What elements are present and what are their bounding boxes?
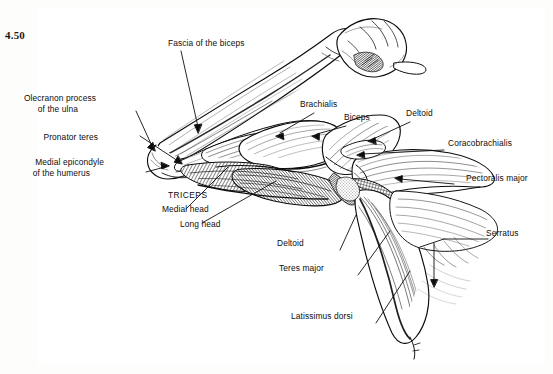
label-biceps: Biceps — [344, 112, 370, 123]
label-medial-epicondyle-of-the-humerus: Medial epicondyle of the humerus — [0, 157, 104, 179]
label-brachialis: Brachialis — [300, 99, 337, 110]
label-olecranon-process-line1: Olecranon process — [0, 93, 96, 104]
label-medial-epicondyle-line1: Medial epicondyle — [0, 157, 104, 168]
label-deltoid-lower: Deltoid — [277, 238, 304, 249]
label-olecranon-process-line2: of the ulna — [0, 104, 78, 115]
label-deltoid-upper: Deltoid — [406, 108, 433, 119]
label-olecranon-process-of-the-ulna: Olecranon process of the ulna — [0, 93, 96, 115]
label-medial-epicondyle-line2: of the humerus — [0, 168, 90, 179]
figure-plate: 4.50 — [0, 0, 553, 374]
label-layer: Fascia of the biceps Olecranon process o… — [0, 0, 553, 374]
label-triceps: TRICEPS — [168, 190, 207, 201]
label-medial-head: Medial head — [162, 204, 209, 215]
label-latissimus-dorsi: Latissimus dorsi — [291, 311, 353, 322]
label-fascia-of-the-biceps: Fascia of the biceps — [168, 38, 244, 49]
label-coracobrachialis: Coracobrachialis — [448, 138, 512, 149]
label-serratus: Serratus — [486, 228, 518, 239]
label-teres-major: Teres major — [279, 263, 324, 274]
label-pectoralis-major: Pectoralis major — [466, 173, 528, 184]
label-pronator-teres: Pronator teres — [0, 132, 98, 143]
label-long-head: Long head — [180, 219, 221, 230]
